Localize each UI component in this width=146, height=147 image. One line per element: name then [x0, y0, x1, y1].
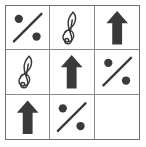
- treble-clef-icon: [50, 6, 93, 49]
- matrix-cell-r3c1[interactable]: [6, 95, 50, 139]
- up-arrow-icon: [6, 95, 49, 139]
- percent-sign-icon: [6, 6, 49, 49]
- up-arrow-icon: [50, 50, 93, 93]
- matrix-cell-r3c3-blank[interactable]: [95, 95, 139, 139]
- matrix-cell-r3c2[interactable]: [50, 95, 94, 139]
- matrix-cell-r1c2[interactable]: [50, 6, 94, 50]
- percent-sign-icon: [95, 50, 139, 93]
- blank-cell-placeholder: [95, 95, 139, 139]
- matrix-cell-r2c1[interactable]: [6, 50, 50, 94]
- matrix-cell-r2c3[interactable]: [95, 50, 139, 94]
- matrix-puzzle-figure: [0, 0, 146, 147]
- matrix-cell-r1c3[interactable]: [95, 6, 139, 50]
- matrix-cell-r2c2[interactable]: [50, 50, 94, 94]
- up-arrow-icon: [95, 6, 139, 49]
- treble-clef-icon: [6, 50, 49, 93]
- matrix-cell-r1c1[interactable]: [6, 6, 50, 50]
- matrix-grid: [5, 5, 140, 140]
- percent-sign-icon: [50, 95, 93, 139]
